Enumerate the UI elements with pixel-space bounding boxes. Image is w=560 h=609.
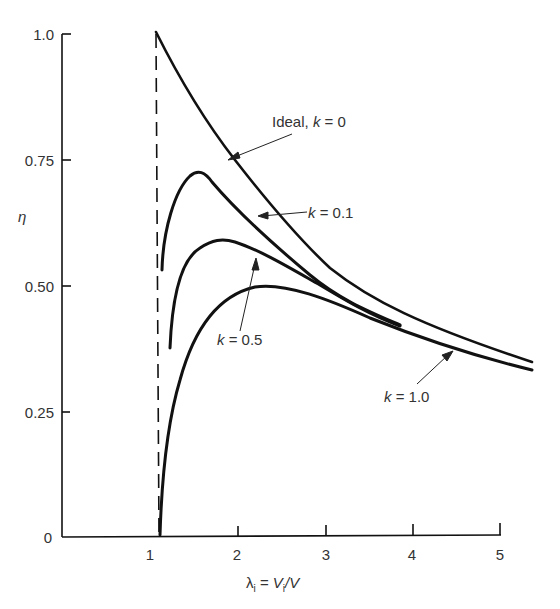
- y-tick: 0.25: [25, 404, 54, 421]
- arrow-ideal: [232, 134, 292, 158]
- x-tick: 4: [408, 546, 416, 563]
- arrow-k-1.0: [417, 355, 448, 384]
- arrow-k-0.5: [240, 264, 255, 331]
- x-axis: [62, 535, 501, 537]
- x-axis-label: λi = Vi/V: [246, 574, 301, 594]
- curve-k-1.0: [160, 286, 532, 535]
- y-tick: 0.50: [25, 278, 54, 295]
- annotation-k-1.0: k = 1.0: [384, 388, 429, 405]
- arrow-k-0.1: [262, 212, 307, 216]
- annotation-k-0.5: k = 0.5: [217, 331, 262, 348]
- annotation-k-0.1: k = 0.1: [308, 204, 353, 221]
- y-axis-label: η: [18, 208, 26, 225]
- y-tick: 0: [44, 529, 52, 546]
- x-tick: 1: [146, 546, 154, 563]
- axes: [62, 34, 501, 537]
- y-tick: 0.75: [25, 152, 54, 169]
- x-tick: 5: [496, 546, 504, 563]
- y-tick: 1.0: [33, 26, 54, 43]
- reference-line-lambda-1: [156, 34, 159, 537]
- x-tick: 2: [233, 546, 241, 563]
- annotation-ideal: Ideal, k = 0: [272, 113, 346, 130]
- x-tick-labels: 1 2 3 4 5: [146, 546, 504, 563]
- y-tick-labels: 1.0 0.75 0.50 0.25 0: [25, 26, 54, 546]
- chart-canvas: 1.0 0.75 0.50 0.25 0 1 2 3 4 5 η λi = Vi…: [0, 0, 560, 609]
- x-tick: 3: [322, 546, 330, 563]
